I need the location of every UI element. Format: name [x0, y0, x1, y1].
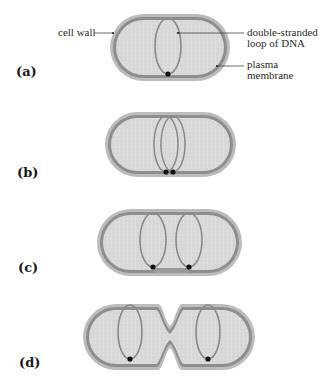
cytoplasm: [89, 310, 249, 364]
dna-attachment-point: [205, 356, 210, 361]
dna-attachment-point: [186, 264, 191, 269]
cytoplasm: [103, 215, 236, 270]
binary-fission-diagram: cell wall double-stranded loop of DNA pl…: [0, 0, 333, 381]
cell-b: [105, 112, 236, 177]
label-cell-wall: cell wall: [58, 27, 96, 38]
label-membrane-line2: membrane: [247, 70, 293, 81]
panel-label-b: (b): [17, 165, 38, 180]
dna-attachment-point: [150, 264, 155, 269]
dna-attachment-point: [127, 356, 132, 361]
cell-a: [110, 14, 230, 81]
new-membrane-growth: [154, 268, 189, 273]
cell-d: [83, 304, 255, 370]
cytoplasm: [111, 118, 230, 171]
cell-c: [97, 209, 242, 276]
panel-label-a: (a): [16, 64, 37, 79]
label-dna-line2: loop of DNA: [247, 38, 305, 49]
panel-label-d: (d): [19, 355, 40, 370]
dna-attachment-point: [163, 169, 168, 174]
dna-attachment-point: [170, 169, 175, 174]
panel-label-c: (c): [18, 260, 38, 275]
dna-attachment-point: [165, 71, 170, 76]
cytoplasm: [116, 20, 224, 75]
